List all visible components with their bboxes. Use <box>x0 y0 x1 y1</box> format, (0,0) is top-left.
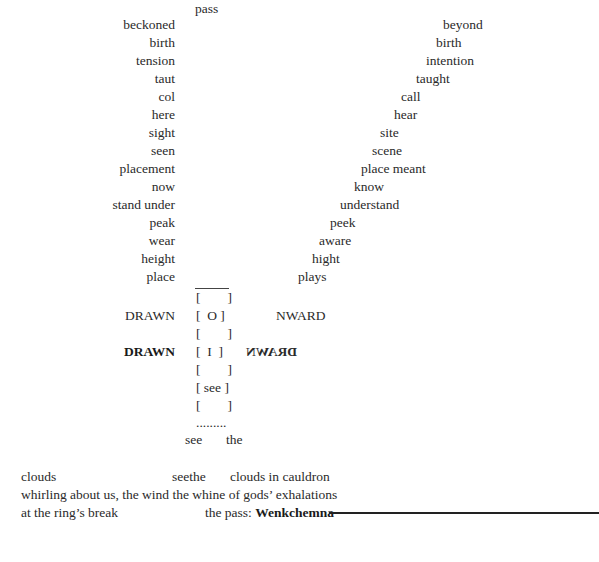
prose-line-2: whirling about us, the wind the whine of… <box>21 487 337 503</box>
bracket-row: [ ] <box>196 326 232 342</box>
left-word: peak <box>150 215 175 231</box>
left-word: birth <box>150 35 176 51</box>
left-word: now <box>152 179 175 195</box>
prose-the-pass: the pass: Wenkchemna <box>205 505 334 521</box>
nward-right: NWARD <box>276 308 326 324</box>
bracket-row: [ ] <box>196 362 232 378</box>
left-word: here <box>152 107 175 123</box>
bracket-overline <box>195 288 229 289</box>
right-word: scene <box>372 143 402 159</box>
dotted-line: ......... <box>196 415 226 431</box>
right-word: intention <box>426 53 474 69</box>
left-word: col <box>159 89 176 105</box>
left-word: stand under <box>112 197 175 213</box>
bracket-row: [ O ] <box>196 308 225 324</box>
prose-clouds: clouds <box>21 469 56 485</box>
left-word: seen <box>151 143 175 159</box>
left-word: wear <box>149 233 175 249</box>
right-word: peek <box>330 215 355 231</box>
right-word: beyond <box>443 17 483 33</box>
top-word: pass <box>195 1 218 17</box>
closing-rule <box>329 512 599 514</box>
bracket-row: [ see ] <box>196 380 229 396</box>
right-word: place meant <box>361 161 426 177</box>
right-word: hight <box>312 251 340 267</box>
bracket-row: [ ] <box>196 398 232 414</box>
left-word: taut <box>155 71 175 87</box>
drawn-mirrored-wrapper: DRAWN <box>246 344 297 360</box>
prose-clouds-cauldron: clouds in cauldron <box>230 469 330 485</box>
the-pass-label: the pass: <box>205 505 255 520</box>
drawn-left-2: DRAWN <box>124 344 175 360</box>
right-word: site <box>380 125 399 141</box>
right-word: know <box>354 179 384 195</box>
right-word: birth <box>436 35 462 51</box>
right-word: understand <box>340 197 399 213</box>
left-word: height <box>141 251 175 267</box>
prose-seethe: seethe <box>172 469 206 485</box>
right-word: call <box>401 89 421 105</box>
right-word: taught <box>416 71 450 87</box>
drawn-left-1: DRAWN <box>125 308 175 324</box>
see-word: see <box>185 432 202 448</box>
right-word: plays <box>298 269 327 285</box>
the-word: the <box>226 432 243 448</box>
left-word: place <box>147 269 175 285</box>
bracket-row: [ I ] <box>196 344 223 360</box>
drawn-mirrored: DRAWN <box>246 344 297 360</box>
right-word: aware <box>319 233 351 249</box>
left-word: sight <box>149 125 175 141</box>
right-word: hear <box>394 107 417 123</box>
wenkchemna: Wenkchemna <box>255 505 334 520</box>
bracket-row: [ ] <box>196 290 232 306</box>
left-word: beckoned <box>123 17 175 33</box>
left-word: placement <box>120 161 175 177</box>
left-word: tension <box>136 53 175 69</box>
prose-ring-break: at the ring’s break <box>21 505 118 521</box>
